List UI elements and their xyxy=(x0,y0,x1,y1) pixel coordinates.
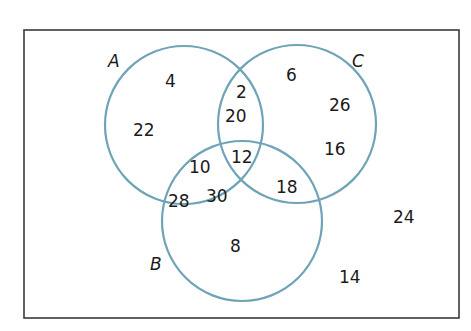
region-b-c: 18 xyxy=(276,177,298,197)
region-a-b-upper: 10 xyxy=(189,157,211,177)
set-c-label: C xyxy=(352,51,364,71)
set-a-label: A xyxy=(107,51,120,71)
region-a-only-top: 4 xyxy=(165,71,176,91)
region-c-only-mid: 26 xyxy=(329,95,351,115)
universal-set-frame xyxy=(24,30,459,318)
region-a-c-top: 2 xyxy=(236,82,247,102)
region-a-c: 20 xyxy=(225,106,247,126)
region-b-only: 8 xyxy=(230,236,241,256)
venn-diagram: A C B 4 22 2 20 6 26 16 10 12 28 30 18 8… xyxy=(0,0,471,331)
region-a-only-left: 22 xyxy=(133,120,155,140)
region-c-only-top: 6 xyxy=(286,65,297,85)
region-outside-right: 24 xyxy=(393,207,415,227)
region-c-only-lower: 16 xyxy=(324,139,346,159)
region-a-b-lower: 30 xyxy=(206,186,228,206)
set-b-label: B xyxy=(150,254,162,274)
region-a-b-left: 28 xyxy=(168,191,190,211)
region-outside-bottom: 14 xyxy=(339,267,361,287)
region-a-b-c: 12 xyxy=(231,147,253,167)
